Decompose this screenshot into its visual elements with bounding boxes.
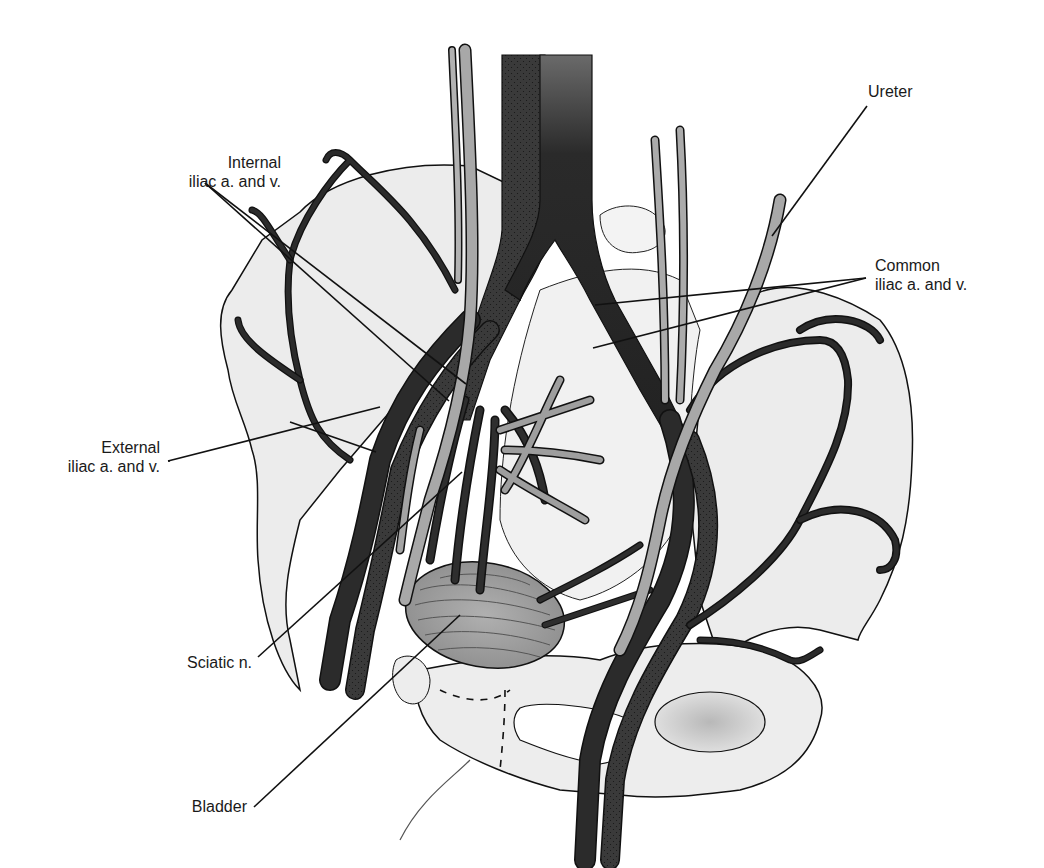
label-internal-iliac-line2: iliac a. and v.: [96, 172, 281, 191]
label-external-iliac-line1: External: [0, 438, 160, 457]
urethral-catheter: [400, 760, 470, 840]
label-bladder-line1: Bladder: [100, 797, 247, 816]
label-ureter-line1: Ureter: [868, 82, 912, 101]
label-common-iliac: Common iliac a. and v.: [875, 256, 967, 294]
label-sciatic-nerve: Sciatic n.: [100, 653, 252, 672]
left-ischium: [393, 656, 430, 704]
leader-ureter: [772, 106, 867, 236]
label-internal-iliac: Internal iliac a. and v.: [96, 153, 281, 191]
pelvic-anatomy-illustration: [0, 0, 1044, 868]
label-external-iliac: External iliac a. and v.: [0, 438, 160, 476]
label-external-iliac-line2: iliac a. and v.: [0, 457, 160, 476]
label-bladder: Bladder: [100, 797, 247, 816]
obturator-foramen: [655, 692, 765, 752]
label-sciatic-line1: Sciatic n.: [100, 653, 252, 672]
label-common-iliac-line2: iliac a. and v.: [875, 275, 967, 294]
label-internal-iliac-line1: Internal: [96, 153, 281, 172]
label-common-iliac-line1: Common: [875, 256, 967, 275]
label-ureter: Ureter: [868, 82, 912, 101]
